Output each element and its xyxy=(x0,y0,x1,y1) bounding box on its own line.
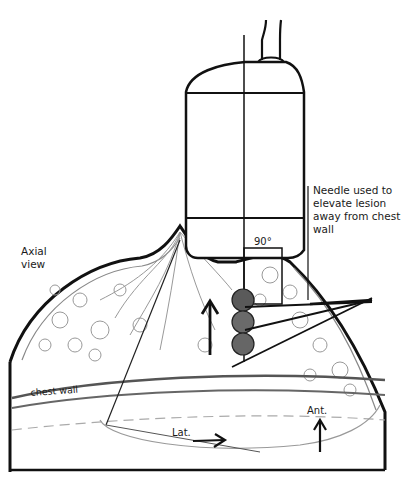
chest-wall-band-3 xyxy=(12,416,385,430)
anterior-arrow-icon xyxy=(314,420,326,452)
needle-annotation: Needle used to elevate lesion away from … xyxy=(313,184,401,236)
lesion xyxy=(232,289,254,355)
breast-outline xyxy=(10,226,385,470)
oblique-reference-line xyxy=(106,240,180,425)
lateral-label: Lat. xyxy=(172,426,191,439)
anterior-label: Ant. xyxy=(307,404,327,417)
transducer-cable xyxy=(258,20,284,62)
transducer-body xyxy=(186,62,304,258)
skin-inner-line-right xyxy=(294,268,376,410)
diagram-canvas xyxy=(0,0,401,488)
axial-view-label: Axial view xyxy=(21,245,61,271)
rib-curve xyxy=(100,405,380,448)
angle-label: 90° xyxy=(254,235,272,248)
needles xyxy=(232,298,372,367)
elevation-arrow-icon xyxy=(202,301,218,355)
